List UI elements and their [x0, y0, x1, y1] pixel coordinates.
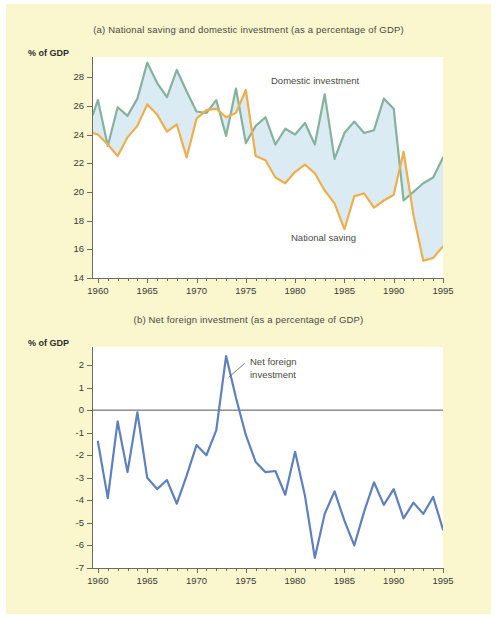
x-tick-mark-minor	[413, 568, 414, 571]
x-tick-mark-minor	[157, 568, 158, 571]
annotation-leader-line	[229, 363, 245, 377]
y-tick-mark	[87, 106, 92, 107]
x-tick-mark-minor	[404, 568, 405, 571]
y-tick-mark	[87, 192, 92, 193]
x-tick-mark-minor	[325, 278, 326, 281]
saving-investment-gap-area	[93, 63, 443, 261]
x-tick-label: 1975	[226, 575, 266, 586]
y-tick-label: 0	[54, 404, 84, 415]
panel-b-x-axis	[92, 568, 444, 569]
x-tick-mark-minor	[285, 568, 286, 571]
x-tick-mark-minor	[315, 568, 316, 571]
x-tick-label: 1985	[324, 575, 364, 586]
x-tick-mark-minor	[128, 278, 129, 281]
x-tick-mark-minor	[364, 278, 365, 281]
x-tick-mark-minor	[354, 278, 355, 281]
y-tick-label: 26	[54, 100, 84, 111]
x-tick-mark-minor	[354, 568, 355, 571]
x-tick-label: 1970	[177, 575, 217, 586]
x-tick-mark-major	[197, 568, 198, 573]
panel-a-axis-caption: % of GDP	[28, 48, 69, 58]
y-tick-mark	[87, 278, 92, 279]
x-tick-mark-minor	[157, 278, 158, 281]
x-tick-mark-minor	[423, 278, 424, 281]
x-tick-mark-minor	[374, 568, 375, 571]
x-tick-label: 1965	[127, 285, 167, 296]
y-tick-mark	[87, 365, 92, 366]
x-tick-mark-minor	[236, 278, 237, 281]
x-tick-mark-minor	[335, 568, 336, 571]
x-tick-mark-minor	[206, 278, 207, 281]
y-tick-mark	[87, 135, 92, 136]
x-tick-mark-minor	[236, 568, 237, 571]
panel-a-y-axis	[92, 57, 93, 279]
x-tick-mark-major	[443, 568, 444, 573]
x-tick-mark-minor	[315, 278, 316, 281]
x-tick-mark-minor	[266, 568, 267, 571]
x-tick-mark-minor	[108, 278, 109, 281]
x-tick-mark-minor	[384, 278, 385, 281]
x-tick-mark-minor	[118, 568, 119, 571]
x-tick-mark-minor	[137, 568, 138, 571]
x-tick-mark-major	[443, 278, 444, 283]
y-tick-mark	[87, 163, 92, 164]
x-tick-mark-major	[246, 568, 247, 573]
x-tick-mark-minor	[374, 278, 375, 281]
y-tick-mark	[87, 568, 92, 569]
y-tick-label: 2	[54, 359, 84, 370]
x-tick-mark-minor	[187, 278, 188, 281]
series-line-net-foreign-investment	[98, 356, 443, 558]
x-tick-label: 1975	[226, 285, 266, 296]
x-tick-label: 1960	[78, 285, 118, 296]
y-tick-label: 1	[54, 382, 84, 393]
panel-b-label-net-foreign-investment: Net foreign investment	[250, 355, 296, 381]
y-tick-mark	[87, 523, 92, 524]
y-tick-mark	[87, 77, 92, 78]
x-tick-mark-minor	[167, 278, 168, 281]
x-tick-mark-minor	[128, 568, 129, 571]
y-tick-label: -6	[54, 539, 84, 550]
x-tick-label: 1985	[324, 285, 364, 296]
x-tick-mark-minor	[216, 278, 217, 281]
x-tick-mark-major	[246, 278, 247, 283]
x-tick-mark-minor	[433, 278, 434, 281]
y-tick-mark	[87, 388, 92, 389]
x-tick-mark-major	[344, 568, 345, 573]
y-tick-label: 14	[54, 272, 84, 283]
x-tick-mark-minor	[305, 278, 306, 281]
y-tick-label: -3	[54, 472, 84, 483]
panel-b-title: (b) Net foreign investment (as a percent…	[0, 314, 497, 325]
panel-a-label-national-saving: National saving	[291, 232, 356, 243]
panel-a-chart-svg	[93, 57, 443, 278]
panel-a-plot-area	[93, 57, 443, 278]
x-tick-mark-minor	[187, 568, 188, 571]
y-tick-mark	[87, 433, 92, 434]
y-tick-label: -1	[54, 427, 84, 438]
x-tick-mark-minor	[256, 278, 257, 281]
x-tick-mark-minor	[206, 568, 207, 571]
x-tick-mark-minor	[137, 278, 138, 281]
x-tick-mark-minor	[226, 278, 227, 281]
x-tick-mark-minor	[256, 568, 257, 571]
x-tick-mark-major	[394, 278, 395, 283]
x-tick-mark-minor	[108, 568, 109, 571]
x-tick-mark-major	[98, 568, 99, 573]
y-tick-mark	[87, 410, 92, 411]
y-tick-mark	[87, 221, 92, 222]
x-tick-label: 1970	[177, 285, 217, 296]
x-tick-label: 1995	[423, 575, 463, 586]
y-tick-label: 20	[54, 186, 84, 197]
y-tick-label: -4	[54, 494, 84, 505]
y-tick-label: -5	[54, 517, 84, 528]
y-tick-mark	[87, 500, 92, 501]
x-tick-mark-minor	[364, 568, 365, 571]
y-tick-mark	[87, 455, 92, 456]
x-tick-mark-minor	[118, 278, 119, 281]
figure-page: (a) National saving and domestic investm…	[0, 0, 497, 618]
x-tick-mark-minor	[404, 278, 405, 281]
x-tick-label: 1980	[275, 575, 315, 586]
y-tick-label: -7	[54, 562, 84, 573]
x-tick-mark-major	[197, 278, 198, 283]
y-tick-mark	[87, 545, 92, 546]
x-tick-mark-minor	[384, 568, 385, 571]
